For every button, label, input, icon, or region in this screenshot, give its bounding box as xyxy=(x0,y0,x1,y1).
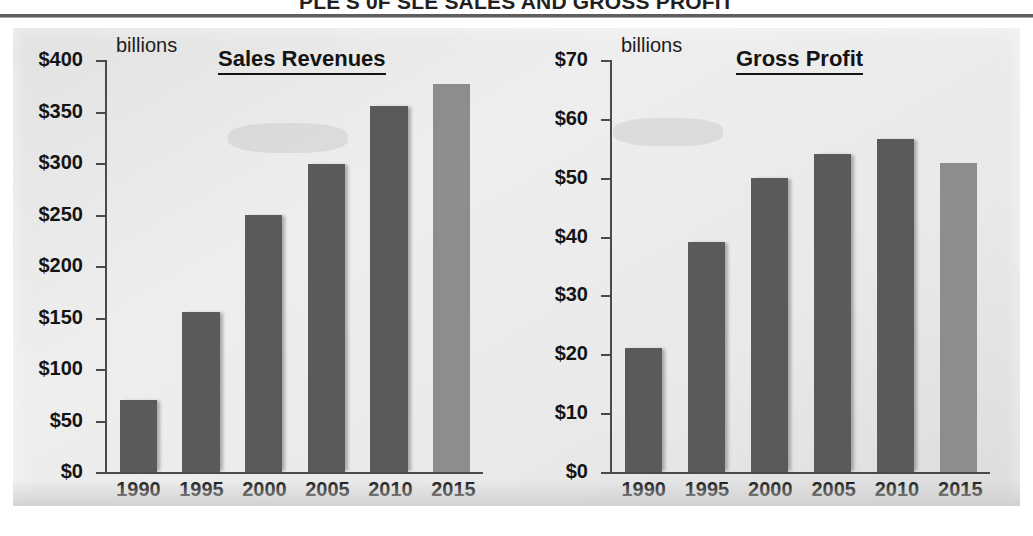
bar-2010[interactable] xyxy=(877,139,915,472)
bar-slot xyxy=(232,60,295,472)
bar-slot xyxy=(738,60,801,472)
bar-2010[interactable] xyxy=(370,106,408,472)
y-tick-label: $150 xyxy=(39,306,84,329)
x-axis-labels-profit: 1990 1995 2000 2005 2010 2015 xyxy=(612,478,992,501)
bar-slot xyxy=(612,60,675,472)
bar-slot xyxy=(675,60,738,472)
bar-2015[interactable] xyxy=(940,163,978,472)
y-tick: $20 xyxy=(601,354,610,356)
bar-1990[interactable] xyxy=(625,348,663,472)
y-tick: $60 xyxy=(601,119,610,121)
y-tick: $40 xyxy=(601,237,610,239)
bar-2005[interactable] xyxy=(308,164,346,472)
bar-1995[interactable] xyxy=(182,312,220,472)
y-tick-label: $300 xyxy=(39,151,84,174)
y-tick: $70 xyxy=(601,60,610,62)
y-tick: $50 xyxy=(96,421,105,423)
bar-slot xyxy=(295,60,358,472)
y-tick: $250 xyxy=(96,215,105,217)
chart-panel: billions Sales Revenues $400 $350 $300 $… xyxy=(13,28,1020,506)
y-tick-label: $350 xyxy=(39,100,84,123)
y-tick: $200 xyxy=(96,266,105,268)
y-tick-label: $200 xyxy=(39,254,84,277)
x-label: 1990 xyxy=(107,478,170,501)
x-label: 2010 xyxy=(865,478,928,501)
x-label: 2005 xyxy=(802,478,865,501)
y-tick-label: $60 xyxy=(555,107,588,130)
y-tick-label: $10 xyxy=(555,401,588,424)
y-tick: $50 xyxy=(601,178,610,180)
y-tick-label: $250 xyxy=(39,203,84,226)
y-tick-label: $0 xyxy=(61,460,83,483)
plot-area-profit: $70 $60 $50 $40 $30 $20 $10 $0 xyxy=(610,60,990,472)
y-tick-label: $20 xyxy=(555,342,588,365)
x-label: 2010 xyxy=(359,478,422,501)
y-tick: $10 xyxy=(601,413,610,415)
header-divider-thin xyxy=(0,17,1033,18)
plot-area-sales: $400 $350 $300 $250 $200 $150 $100 $50 xyxy=(105,60,483,472)
bar-slot xyxy=(927,60,990,472)
x-label: 2015 xyxy=(929,478,992,501)
x-axis-profit xyxy=(610,472,990,474)
bar-1990[interactable] xyxy=(120,400,158,472)
bar-slot xyxy=(107,60,170,472)
bar-1995[interactable] xyxy=(688,242,726,472)
x-label: 2000 xyxy=(739,478,802,501)
bar-group-sales xyxy=(107,60,483,472)
bar-2000[interactable] xyxy=(751,178,789,472)
bar-2015[interactable] xyxy=(433,84,471,472)
x-label: 2000 xyxy=(233,478,296,501)
y-tick-label: $100 xyxy=(39,357,84,380)
bar-slot xyxy=(864,60,927,472)
y-tick: $150 xyxy=(96,318,105,320)
y-tick: $350 xyxy=(96,112,105,114)
x-label: 1990 xyxy=(612,478,675,501)
bar-slot xyxy=(358,60,421,472)
y-tick: $400 xyxy=(96,60,105,62)
units-label-profit: billions xyxy=(621,34,682,57)
x-axis-sales xyxy=(105,472,483,474)
y-tick-label: $70 xyxy=(555,48,588,71)
x-label: 2015 xyxy=(422,478,485,501)
bar-group-profit xyxy=(612,60,990,472)
y-tick: $0 xyxy=(601,472,610,474)
y-tick-label: $50 xyxy=(555,166,588,189)
bar-slot xyxy=(801,60,864,472)
chart-sales-revenues: billions Sales Revenues $400 $350 $300 $… xyxy=(13,28,513,506)
x-label: 1995 xyxy=(675,478,738,501)
y-tick-label: $400 xyxy=(39,48,84,71)
y-tick: $300 xyxy=(96,163,105,165)
x-label: 2005 xyxy=(296,478,359,501)
bar-slot xyxy=(170,60,233,472)
y-tick-label: $40 xyxy=(555,225,588,248)
y-tick: $0 xyxy=(96,472,105,474)
chart-gross-profit: billions Gross Profit $70 $60 $50 $40 $3… xyxy=(513,28,1020,506)
x-axis-labels-sales: 1990 1995 2000 2005 2010 2015 xyxy=(107,478,485,501)
figure-title: PLE'S 0F SLE SALES AND GROSS PROFIT xyxy=(0,0,1033,14)
bar-2005[interactable] xyxy=(814,154,852,472)
bar-2000[interactable] xyxy=(245,215,283,473)
units-label-sales: billions xyxy=(116,34,177,57)
y-tick: $30 xyxy=(601,295,610,297)
y-tick-label: $0 xyxy=(566,460,588,483)
y-tick-label: $30 xyxy=(555,283,588,306)
x-label: 1995 xyxy=(170,478,233,501)
figure-header: PLE'S 0F SLE SALES AND GROSS PROFIT xyxy=(0,0,1033,14)
bar-slot xyxy=(420,60,483,472)
y-tick: $100 xyxy=(96,369,105,371)
y-tick-label: $50 xyxy=(50,409,83,432)
